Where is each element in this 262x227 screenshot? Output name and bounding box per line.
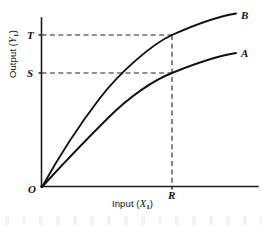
y-axis-title-prefix: Output ( (7, 43, 18, 78)
y-tick-label-S: S (27, 68, 33, 79)
x-axis-title-prefix: Input ( (112, 198, 140, 209)
y-axis-title-suffix: ) (7, 30, 18, 33)
x-axis-title: Input (X1) (112, 199, 153, 211)
curve-B (42, 14, 236, 188)
curve-label-A: A (241, 48, 248, 59)
figure-container: Output (Y1) Input (X1) T S O R A B (0, 0, 262, 227)
x-axis-title-suffix: ) (150, 198, 153, 209)
curve-label-B: B (241, 10, 248, 21)
response-curve-plot (0, 0, 262, 227)
origin-label: O (28, 184, 36, 195)
y-axis-title: Output (Y1) (8, 30, 20, 78)
scan-bleed-artifact (0, 216, 262, 225)
y-tick-label-T: T (27, 30, 34, 41)
x-tick-label-R: R (168, 190, 175, 201)
y-axis-title-variable: Y (7, 37, 18, 43)
y-axis-title-subscript: 1 (12, 33, 20, 37)
